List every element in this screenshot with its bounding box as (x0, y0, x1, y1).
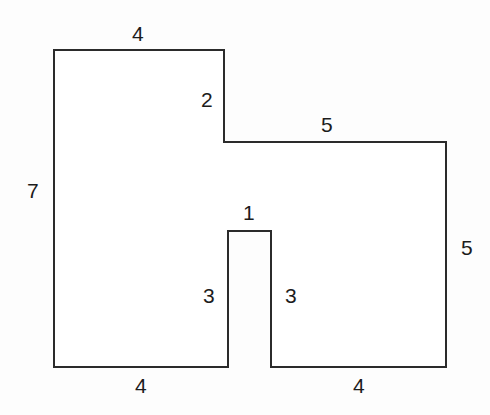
dimension-label-bottom-left-4: 4 (135, 375, 147, 396)
dimension-label-left-7: 7 (27, 180, 39, 201)
dimension-label-notch-right-3: 3 (285, 285, 297, 306)
geometry-figure: 4 2 5 5 1 3 3 4 4 7 (0, 0, 490, 415)
dimension-label-bottom-right-4: 4 (353, 375, 365, 396)
dimension-label-step-2: 2 (201, 89, 213, 110)
dimension-label-right-5: 5 (461, 237, 473, 258)
dimension-label-top-4: 4 (132, 23, 144, 44)
dimension-label-notch-left-3: 3 (203, 285, 215, 306)
dimension-label-upper-5: 5 (321, 114, 333, 135)
dimension-label-notch-1: 1 (243, 202, 255, 223)
